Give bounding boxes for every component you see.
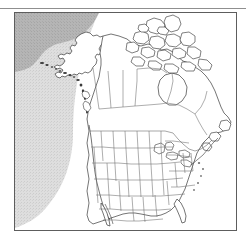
north-america-map xyxy=(15,13,234,228)
map-frame xyxy=(14,12,237,231)
figure-container: North America xyxy=(0,0,246,236)
top-horizontal-rule xyxy=(0,8,246,9)
